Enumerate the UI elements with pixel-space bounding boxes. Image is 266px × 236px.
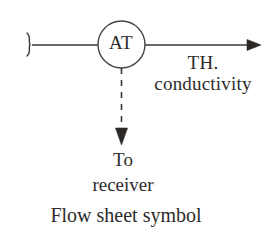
figure-caption: Flow sheet symbol bbox=[0, 205, 252, 225]
instrument-tag-label: AT bbox=[0, 33, 242, 52]
output-label-line1: TH. bbox=[0, 53, 266, 72]
destination-label-line2: receiver bbox=[0, 175, 246, 194]
arrowhead-right-icon bbox=[247, 40, 261, 51]
arrowhead-down-icon bbox=[116, 128, 128, 145]
destination-label-line1: To bbox=[0, 150, 246, 169]
output-label-line2: conductivity bbox=[0, 74, 266, 93]
